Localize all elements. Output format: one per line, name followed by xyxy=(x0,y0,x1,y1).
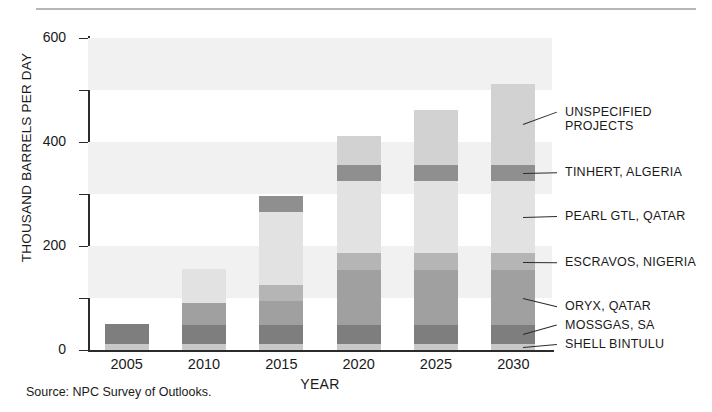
bar-segment[interactable] xyxy=(337,165,381,181)
bar-segment[interactable] xyxy=(491,181,535,254)
bar-segment[interactable] xyxy=(182,269,226,303)
y-axis-tick-label: 0 xyxy=(14,342,66,356)
bar-segment[interactable] xyxy=(337,136,381,165)
legend-label: MOSSGAS, SA xyxy=(565,318,655,332)
bar-segment[interactable] xyxy=(259,344,303,350)
bar-segment[interactable] xyxy=(491,84,535,165)
bar-stack[interactable] xyxy=(414,110,458,350)
bar-segment[interactable] xyxy=(491,165,535,181)
bar-segment[interactable] xyxy=(259,196,303,212)
x-axis-tick-label: 2010 xyxy=(164,356,244,372)
top-divider-rule xyxy=(36,8,696,10)
bar-segment[interactable] xyxy=(259,285,303,302)
x-axis-tick-label: 2030 xyxy=(473,356,553,372)
x-axis-tick-label: 2020 xyxy=(319,356,399,372)
legend-label: ORYX, QATAR xyxy=(565,299,651,313)
y-axis-tick-label: 200 xyxy=(14,238,66,252)
bar-segment[interactable] xyxy=(414,325,458,344)
bar-segment[interactable] xyxy=(337,344,381,350)
x-axis-tick-label: 2025 xyxy=(396,356,476,372)
y-axis-tick-label: 600 xyxy=(14,30,66,44)
bar-segment[interactable] xyxy=(182,344,226,350)
bar-segment[interactable] xyxy=(414,344,458,350)
bar-stack[interactable] xyxy=(491,84,535,350)
bar-series-group xyxy=(88,38,552,350)
bar-segment[interactable] xyxy=(491,253,535,270)
bar-segment[interactable] xyxy=(259,325,303,344)
bar-segment[interactable] xyxy=(414,270,458,325)
x-axis-line xyxy=(88,350,554,352)
bar-stack[interactable] xyxy=(259,196,303,350)
legend-label: TINHERT, ALGERIA xyxy=(565,165,682,179)
bar-segment[interactable] xyxy=(414,181,458,254)
y-axis-tick-label: 400 xyxy=(14,134,66,148)
y-axis-tick xyxy=(79,142,88,143)
bar-segment[interactable] xyxy=(491,325,535,344)
plot-area xyxy=(88,38,552,350)
bar-segment[interactable] xyxy=(105,324,149,344)
bar-segment[interactable] xyxy=(337,253,381,270)
bar-segment[interactable] xyxy=(414,110,458,165)
bar-stack[interactable] xyxy=(182,269,226,350)
legend-label: SHELL BINTULU xyxy=(565,337,664,351)
y-axis-tick xyxy=(79,350,88,351)
x-axis-tick-label: 2005 xyxy=(87,356,167,372)
bar-segment[interactable] xyxy=(491,344,535,350)
x-axis-tick-label: 2015 xyxy=(241,356,321,372)
legend-label: PEARL GTL, QATAR xyxy=(565,209,685,223)
bar-stack[interactable] xyxy=(105,324,149,350)
y-axis-tick xyxy=(79,246,88,247)
source-note: Source: NPC Survey of Outlooks. xyxy=(26,385,212,399)
bar-segment[interactable] xyxy=(414,165,458,181)
y-axis-tick-labels: 0200400600 xyxy=(14,0,66,412)
bar-segment[interactable] xyxy=(491,270,535,325)
bar-segment[interactable] xyxy=(182,325,226,344)
bar-segment[interactable] xyxy=(259,301,303,325)
bar-stack[interactable] xyxy=(337,136,381,350)
bar-segment[interactable] xyxy=(414,253,458,270)
y-axis-tick xyxy=(79,38,88,39)
y-axis-tick xyxy=(79,90,88,91)
bar-segment[interactable] xyxy=(182,303,226,325)
bar-segment[interactable] xyxy=(105,344,149,350)
legend-label: ESCRAVOS, NIGERIA xyxy=(565,255,696,269)
bar-segment[interactable] xyxy=(259,212,303,285)
bar-segment[interactable] xyxy=(337,325,381,344)
y-axis-tick xyxy=(79,194,88,195)
bar-segment[interactable] xyxy=(337,270,381,325)
legend-label: UNSPECIFIED PROJECTS xyxy=(565,105,652,133)
bar-segment[interactable] xyxy=(337,181,381,254)
y-axis-tick xyxy=(79,298,88,299)
